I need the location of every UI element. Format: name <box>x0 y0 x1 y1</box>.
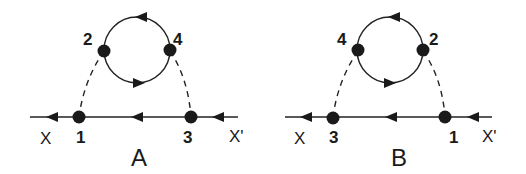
vertex-dot <box>439 111 452 124</box>
vertex-dot <box>417 44 430 57</box>
vertex-label: 1 <box>76 128 85 147</box>
vertex-dot <box>98 45 111 58</box>
vertex-dot <box>327 112 340 125</box>
arrow-left-icon <box>385 112 397 122</box>
fermion-loop-a <box>104 17 170 83</box>
diagram-title: B <box>391 144 407 171</box>
external-label-right: X' <box>229 127 244 146</box>
dashed-propagator-a-right <box>170 51 191 117</box>
arrow-right-icon <box>384 78 396 88</box>
feynman-diagram-figure: 2 4 1 3 X X' A 4 2 3 1 <box>0 0 526 174</box>
arrow-left-icon <box>131 112 143 122</box>
diagram-title: A <box>131 144 147 171</box>
fermion-loop-b <box>357 17 423 83</box>
external-label-left: X <box>294 129 305 148</box>
vertex-label: 2 <box>83 30 92 49</box>
vertex-label: 1 <box>449 128 458 147</box>
dashed-propagator-a-left <box>79 51 104 117</box>
diagram-b: 4 2 3 1 X X' B <box>285 12 497 171</box>
dashed-propagator-b-right <box>423 51 445 117</box>
vertex-dot <box>352 44 365 57</box>
arrow-left-icon <box>212 112 224 122</box>
vertex-label: 3 <box>183 128 192 147</box>
vertex-label: 4 <box>173 30 183 49</box>
external-label-right: X' <box>482 127 497 146</box>
diagram-svg: 2 4 1 3 X X' A 4 2 3 1 <box>0 0 526 174</box>
vertex-label: 2 <box>429 30 438 49</box>
vertex-label: 4 <box>337 30 347 49</box>
arrow-left-icon <box>467 112 479 122</box>
dashed-propagator-b-left <box>333 51 358 117</box>
arrow-right-icon <box>133 78 145 88</box>
arrow-left-icon <box>46 112 58 122</box>
diagram-a: 2 4 1 3 X X' A <box>30 12 244 171</box>
vertex-dot <box>185 111 198 124</box>
arrow-left-icon <box>300 112 312 122</box>
external-label-left: X <box>40 129 51 148</box>
vertex-label: 3 <box>329 128 338 147</box>
arrow-left-icon <box>135 12 147 22</box>
arrow-left-icon <box>388 12 400 22</box>
vertex-dot <box>73 111 86 124</box>
